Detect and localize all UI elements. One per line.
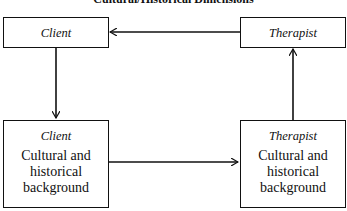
desc-line: Cultural and: [4, 148, 108, 164]
therapist-background-role: Therapist: [241, 129, 345, 144]
desc-line: background: [241, 180, 345, 196]
desc-line: Cultural and: [241, 148, 345, 164]
desc-line: historical: [4, 164, 108, 180]
therapist-label: Therapist: [269, 26, 317, 40]
therapist-box: Therapist: [240, 17, 346, 48]
client-background-box: Client Cultural and historical backgroun…: [3, 120, 109, 208]
client-box: Client: [3, 17, 109, 48]
client-background-role: Client: [4, 129, 108, 144]
desc-line: background: [4, 180, 108, 196]
desc-line: historical: [241, 164, 345, 180]
client-label: Client: [41, 26, 72, 40]
therapist-background-box: Therapist Cultural and historical backgr…: [240, 120, 346, 208]
diagram: Cultural/Historical Dimensions Client Th…: [0, 0, 347, 211]
